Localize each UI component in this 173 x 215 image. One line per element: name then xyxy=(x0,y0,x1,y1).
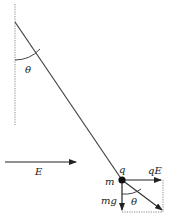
charge-label: q xyxy=(119,165,125,175)
theta-label-bottom: θ xyxy=(131,197,137,207)
resultant-force-arrow xyxy=(122,180,162,210)
theta-label-top: θ xyxy=(25,65,31,75)
mass-point xyxy=(118,176,125,183)
mass-label: m xyxy=(105,177,114,187)
theta-arc-top xyxy=(15,49,40,60)
field-label: E xyxy=(35,167,42,177)
gravity-label: mg xyxy=(101,196,117,206)
electric-force-label: qE xyxy=(148,166,162,176)
pendulum-diagram xyxy=(0,0,173,215)
pendulum-string xyxy=(15,22,122,180)
